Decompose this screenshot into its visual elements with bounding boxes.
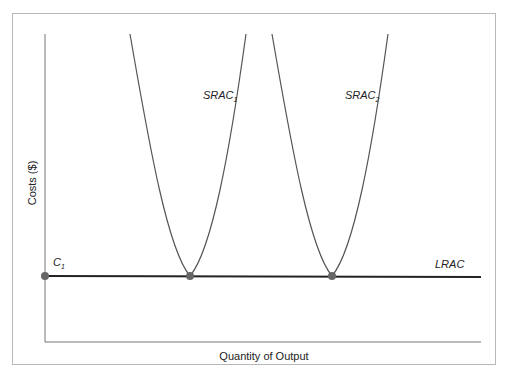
srac2-min-point: [328, 272, 336, 280]
srac2-label: SRAC2: [345, 89, 380, 103]
cost-curve-diagram: SRAC1 SRAC2 LRAC C1 Quantity of Output C…: [0, 0, 511, 383]
srac1-label: SRAC1: [203, 89, 238, 103]
c1-label: C1: [53, 256, 65, 270]
lrac-label: LRAC: [435, 258, 464, 270]
y-axis-label: Costs ($): [26, 161, 38, 206]
lrac-line: [45, 276, 481, 277]
srac2-curve: [272, 34, 388, 276]
c1-point: [41, 272, 49, 280]
x-axis-label: Quantity of Output: [219, 350, 308, 362]
srac1-curve: [130, 34, 246, 276]
srac1-min-point: [186, 272, 194, 280]
